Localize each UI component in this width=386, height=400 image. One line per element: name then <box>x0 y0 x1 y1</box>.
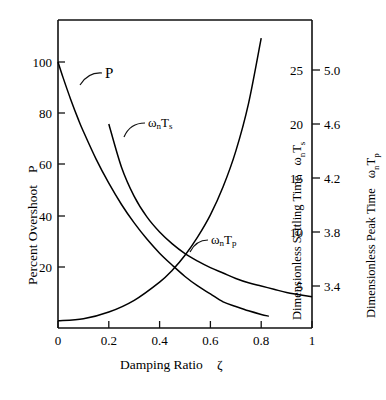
y-left-axis-title: Percent OvershootP <box>26 165 40 285</box>
leader-wnts <box>124 123 145 137</box>
curve-peak-time <box>58 38 261 321</box>
left-tick-20: 20 <box>39 261 52 274</box>
y-left-axis-title-text: Percent Overshoot <box>25 185 40 285</box>
y-right-inner-axis-title-text: Dimensionless Settling Time <box>290 176 304 320</box>
bottom-tick-0-2: 0.2 <box>101 334 117 347</box>
x-axis-title-text: Damping Ratio <box>120 357 203 372</box>
curve-label-wntp: ωnTp <box>211 233 237 248</box>
x-axis-symbol-zeta: ζ <box>217 357 223 372</box>
left-axis-ticks <box>58 62 65 267</box>
bottom-tick-1: 1 <box>309 334 316 347</box>
right-outer-tick-3-8: 3.8 <box>324 226 340 239</box>
bottom-tick-0-4: 0.4 <box>151 334 167 347</box>
y-right-inner-axis-title: Dimensionless Settling TimeωnTs <box>291 142 307 320</box>
left-tick-40: 40 <box>39 210 52 223</box>
right-inner-tick-20: 20 <box>290 118 303 131</box>
right-inner-tick-25: 25 <box>290 64 303 77</box>
percent-overshoot-chart: 100 80 60 40 20 0 0.2 0.4 0.6 0.8 1 25 2… <box>0 0 386 400</box>
axis-frame <box>58 20 312 328</box>
bottom-tick-0-8: 0.8 <box>253 334 269 347</box>
bottom-tick-0: 0 <box>55 334 62 347</box>
bottom-tick-0-6: 0.6 <box>202 334 218 347</box>
right-outer-tick-5-0: 5.0 <box>324 64 340 77</box>
y-right-outer-axis-title-text: Dimensionless Peak Time <box>364 188 378 318</box>
right-axis-ticks <box>312 70 320 286</box>
bottom-axis-ticks <box>58 321 312 328</box>
left-tick-80: 80 <box>39 107 52 120</box>
leader-wntp <box>190 240 208 252</box>
curve-label-wnts: ωnTs <box>148 116 173 131</box>
right-outer-tick-4-2: 4.2 <box>324 172 340 185</box>
y-right-inner-axis-symbol: ωnTs <box>290 142 304 166</box>
curve-label-leaders <box>80 73 208 252</box>
left-tick-60: 60 <box>39 158 52 171</box>
y-right-outer-axis-symbol: ωnTp <box>364 153 378 178</box>
curve-settling-time <box>109 124 312 297</box>
x-axis-title: Damping Ratioζ <box>120 358 222 372</box>
leader-p <box>80 73 102 85</box>
left-tick-100: 100 <box>33 56 53 69</box>
y-left-axis-symbol-p: P <box>25 165 40 173</box>
y-right-outer-axis-title: Dimensionless Peak TimeωnTp <box>365 153 381 318</box>
curve-label-p: P <box>105 66 113 81</box>
data-curves <box>58 38 312 321</box>
right-outer-tick-3-4: 3.4 <box>324 280 340 293</box>
right-outer-tick-4-6: 4.6 <box>324 118 340 131</box>
